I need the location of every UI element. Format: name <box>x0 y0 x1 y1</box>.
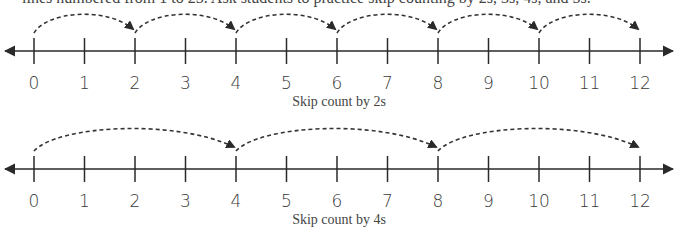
tick-label: 10 <box>528 73 550 93</box>
skip-jump-arrow <box>236 129 436 151</box>
tick-label: 10 <box>528 191 550 211</box>
tick-label: 0 <box>29 73 40 93</box>
skip-jump-arrow <box>135 14 234 33</box>
number-line-caption: Skip count by 2s <box>292 94 386 109</box>
tick-label: 8 <box>433 73 444 93</box>
tick-label: 3 <box>180 191 191 211</box>
tick-label: 4 <box>231 73 242 93</box>
skip-jump-arrow <box>539 14 638 33</box>
tick-label: 2 <box>130 73 141 93</box>
tick-label: 6 <box>332 73 343 93</box>
tick-label: 6 <box>332 191 343 211</box>
skip-jump-arrow <box>34 129 234 151</box>
tick-label: 2 <box>130 191 141 211</box>
tick-label: 5 <box>281 191 292 211</box>
tick-label: 1 <box>79 73 90 93</box>
tick-label: 4 <box>231 191 242 211</box>
skip-jump-arrow <box>34 14 133 33</box>
number-lines-diagram: 0123456789101112Skip count by 2s 0123456… <box>0 0 678 228</box>
tick-label: 11 <box>579 73 601 93</box>
skip-jump-arrow <box>438 129 638 151</box>
tick-label: 8 <box>433 191 444 211</box>
tick-label: 5 <box>281 73 292 93</box>
tick-label: 7 <box>382 191 393 211</box>
tick-label: 0 <box>29 191 40 211</box>
tick-label: 1 <box>79 191 90 211</box>
tick-label: 9 <box>483 191 494 211</box>
number-line-skip-2: 0123456789101112Skip count by 2s <box>5 14 673 109</box>
tick-label: 3 <box>180 73 191 93</box>
number-line-skip-4: 0123456789101112Skip count by 4s <box>5 129 673 227</box>
number-line-caption: Skip count by 4s <box>292 212 386 227</box>
tick-label: 9 <box>483 73 494 93</box>
tick-label: 12 <box>629 191 651 211</box>
tick-label: 12 <box>629 73 651 93</box>
skip-jump-arrow <box>337 14 436 33</box>
tick-label: 7 <box>382 73 393 93</box>
skip-jump-arrow <box>236 14 335 33</box>
skip-jump-arrow <box>438 14 537 33</box>
tick-label: 11 <box>579 191 601 211</box>
